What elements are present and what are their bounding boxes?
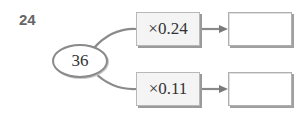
result-box-bottom[interactable] [228, 72, 292, 106]
arrow-icon [219, 85, 228, 93]
operation-box-bottom: ×0.11 [136, 72, 200, 106]
input-oval: 36 [52, 44, 108, 78]
arrow-icon [219, 25, 228, 33]
operation-box-top: ×0.24 [136, 12, 200, 46]
result-box-top[interactable] [228, 12, 292, 46]
